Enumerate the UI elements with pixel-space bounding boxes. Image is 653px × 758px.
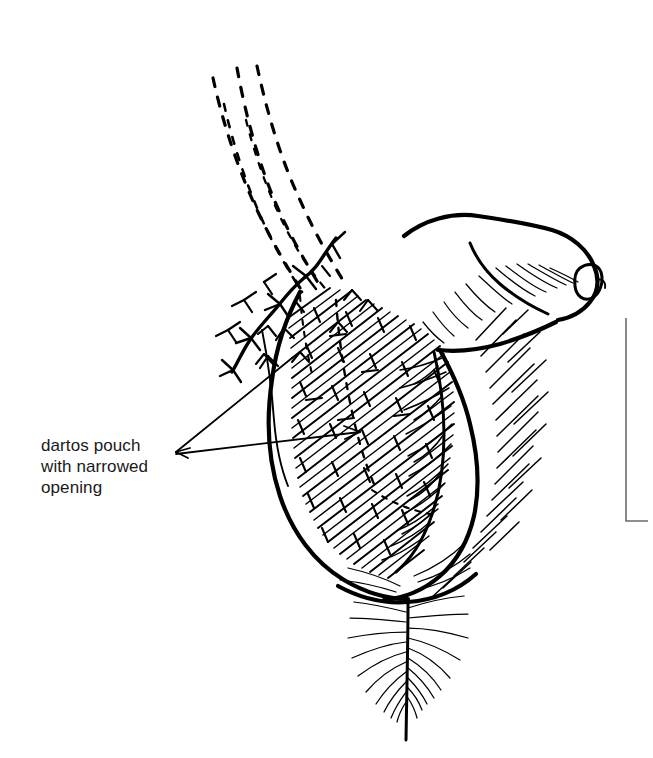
urethral-meatus xyxy=(575,265,605,300)
spermatic-cord-group xyxy=(213,66,344,292)
glans-shading xyxy=(423,264,578,343)
illustration-svg xyxy=(0,0,653,758)
pouch-edge-stitches xyxy=(216,274,294,368)
glans-penis-group xyxy=(404,215,605,351)
annotation-dartos-pouch: dartos pouch with narrowed opening xyxy=(41,435,148,498)
suture-line-group xyxy=(220,232,377,382)
dartos-pouch-hatching xyxy=(288,288,454,578)
dartos-pouch-group xyxy=(216,274,454,599)
scrotal-raphe-group xyxy=(338,542,476,740)
margin-rule xyxy=(626,318,648,521)
figure-canvas: dartos pouch with narrowed opening xyxy=(0,0,653,758)
dartos-pouch-stitch-ticks xyxy=(298,308,440,554)
